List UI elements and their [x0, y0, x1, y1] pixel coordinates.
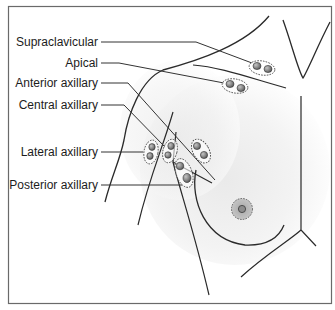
lymph-node-diagram: Supraclavicular Apical Anterior axillary…: [0, 0, 335, 310]
label-central-axillary: Central axillary: [0, 98, 98, 112]
label-posterior-axillary: Posterior axillary: [0, 178, 98, 192]
label-lateral-axillary: Lateral axillary: [0, 145, 98, 159]
nipple: [238, 205, 245, 212]
label-apical: Apical: [0, 56, 98, 70]
label-supraclavicular: Supraclavicular: [0, 35, 98, 49]
label-anterior-axillary: Anterior axillary: [0, 76, 98, 90]
